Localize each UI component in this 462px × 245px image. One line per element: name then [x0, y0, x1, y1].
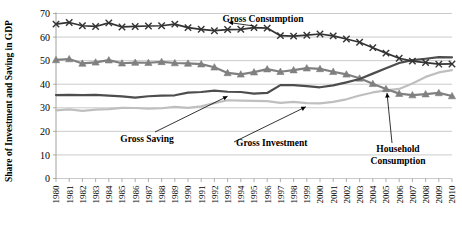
x-tick-label: 1997 — [276, 185, 286, 204]
annotation-label: Gross Investment — [236, 138, 308, 148]
x-tick-label: 1994 — [236, 185, 246, 204]
x-tick-label: 1982 — [78, 186, 88, 204]
y-axis-title: Share of Investment and Saving in GDP — [4, 20, 14, 182]
x-tick-label: 1986 — [131, 185, 141, 204]
x-tick-label: 1998 — [289, 185, 299, 204]
x-tick-label: 1999 — [302, 185, 312, 204]
y-tick-label: 40 — [40, 79, 50, 90]
annotation-label: Gross Saving — [120, 134, 174, 144]
chart-container: 010203040506070 198019811982198319841985… — [0, 0, 462, 245]
x-tick-label: 1991 — [197, 186, 207, 204]
x-tick-label: 1981 — [65, 186, 75, 204]
x-tick-label: 2007 — [408, 185, 418, 204]
x-tick-label: 2008 — [421, 185, 431, 204]
annotation-label: Consumption — [371, 156, 427, 166]
x-tick-label: 1995 — [249, 185, 259, 204]
x-tick-label: 1987 — [144, 185, 154, 204]
y-tick-label: 60 — [40, 32, 50, 43]
x-tick-label: 1988 — [157, 185, 167, 204]
y-tick-label: 70 — [40, 8, 50, 19]
x-tick-label: 2003 — [355, 185, 365, 204]
y-tick-label: 0 — [45, 173, 50, 184]
x-tick-label: 2001 — [329, 186, 339, 204]
x-tick-label: 1980 — [51, 185, 61, 204]
x-tick-label: 1993 — [223, 185, 233, 204]
x-tick-label: 2009 — [434, 185, 444, 204]
x-tick-label: 1996 — [263, 185, 273, 204]
x-tick-label: 1990 — [183, 185, 193, 204]
x-tick-label: 1992 — [210, 186, 220, 204]
x-tick-label: 1984 — [104, 185, 114, 204]
investment-saving-line-chart: 010203040506070 198019811982198319841985… — [0, 0, 462, 245]
x-tick-label: 2010 — [447, 185, 457, 204]
annotation-label: Gross Consumption — [223, 14, 305, 24]
x-tick-label: 1983 — [91, 185, 101, 204]
y-tick-label: 10 — [40, 150, 50, 161]
x-tick-label: 2006 — [395, 185, 405, 204]
x-tick-label: 2002 — [342, 186, 352, 204]
x-tick-label: 1985 — [117, 185, 127, 204]
x-tick-label: 2000 — [315, 185, 325, 204]
x-tick-labels: 1980198119821983198419851986198719881989… — [51, 185, 457, 204]
x-tick-label: 2005 — [381, 185, 391, 204]
y-tick-label: 50 — [40, 55, 50, 66]
y-tick-label: 30 — [40, 102, 50, 113]
x-tick-label: 2004 — [368, 185, 378, 204]
y-tick-label: 20 — [40, 126, 50, 137]
x-tick-label: 1989 — [170, 185, 180, 204]
annotation-label: Household — [376, 144, 420, 154]
